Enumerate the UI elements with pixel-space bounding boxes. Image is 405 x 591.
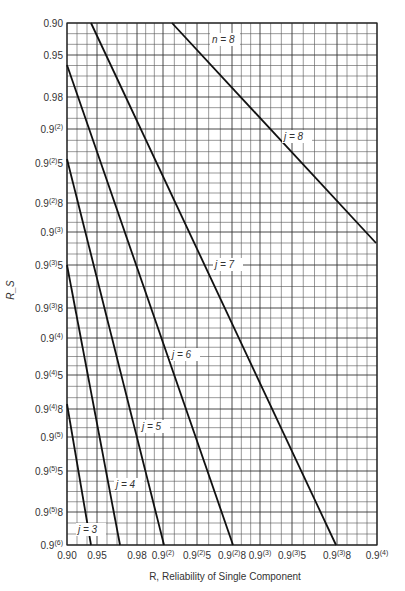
x-tick-label: 0.90 [57, 550, 77, 561]
series-lines [67, 23, 376, 545]
series-line [91, 23, 336, 545]
series-label: j = 8 [282, 131, 304, 142]
series-line [67, 65, 233, 545]
grid-lines [67, 23, 377, 545]
y-tick-label: 0.90 [44, 18, 64, 29]
reliability-chart: 0.900.950.980.9(2)0.9(2)50.9(2)80.9(3)0.… [0, 0, 405, 591]
x-tick-label: 0.9(3) [249, 549, 271, 561]
y-tick-label: 0.9(2)8 [35, 197, 63, 209]
x-tick-label: 0.95 [87, 550, 107, 561]
x-tick-label: 0.9(2)8 [218, 549, 246, 561]
y-axis-label: R_S [5, 280, 16, 300]
x-axis-label: R, Reliability of Single Component [149, 571, 301, 582]
series-line [172, 23, 376, 243]
series-label: j = 3 [76, 524, 98, 535]
x-tick-label: 0.98 [127, 550, 147, 561]
y-tick-label: 0.95 [44, 50, 64, 61]
y-tick-label: 0.9(2) [41, 123, 63, 135]
y-tick-label: 0.9(4)5 [35, 369, 63, 381]
x-axis-ticks: 0.900.950.980.9(2)0.9(2)50.9(2)80.9(3)0.… [57, 549, 388, 561]
x-tick-label: 0.9(2) [152, 549, 174, 561]
y-tick-label: 0.9(3)5 [35, 259, 63, 271]
y-tick-label: 0.9(5)5 [35, 465, 63, 477]
series-label: j = 6 [170, 349, 192, 360]
x-tick-label: 0.9(3)8 [323, 549, 351, 561]
y-tick-label: 0.9(3)8 [35, 302, 63, 314]
series-label: j = 4 [114, 479, 136, 490]
x-tick-label: 0.9(3)5 [278, 549, 306, 561]
y-axis-ticks: 0.900.950.980.9(2)0.9(2)50.9(2)80.9(3)0.… [35, 18, 63, 551]
n-annotation: n = 8 [212, 34, 235, 45]
y-tick-label: 0.9(4) [41, 332, 63, 344]
y-tick-label: 0.9(2)5 [35, 157, 63, 169]
x-tick-label: 0.9(2)5 [183, 549, 211, 561]
series-label: j = 7 [213, 259, 235, 270]
y-tick-label: 0.9(4)8 [35, 403, 63, 415]
series-line [67, 265, 120, 545]
y-tick-label: 0.9(5) [41, 431, 63, 443]
y-tick-label: 0.98 [44, 92, 64, 103]
y-tick-label: 0.9(3) [41, 226, 63, 238]
y-tick-label: 0.9(5)8 [35, 506, 63, 518]
series-labels: j = 3j = 4j = 5j = 6j = 7j = 8n = 8 [76, 33, 312, 536]
x-tick-label: 0.9(4) [366, 549, 388, 561]
series-label: j = 5 [140, 421, 162, 432]
